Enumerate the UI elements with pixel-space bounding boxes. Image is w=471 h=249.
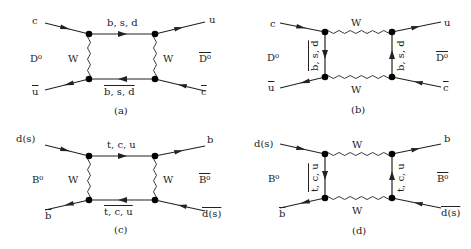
label-outgoing-top: b [207,134,213,145]
vertex [389,195,396,202]
label-initial-meson: B⁰ [268,173,279,184]
label-incoming-bottom: u [32,86,39,97]
vertex [389,151,396,158]
diagram-d: d(s) b b d(s) B⁰ B⁰ W W t, c, u t, c, u … [254,133,460,236]
label-final-meson: B⁰ [437,173,448,184]
label-outgoing-bottom: d(s) [202,208,221,219]
w-boson-bottom [325,76,392,79]
vertex [322,74,329,81]
vertex [86,76,93,83]
label-incoming-top: d(s) [16,133,35,144]
label-final-meson: D⁰ [436,52,448,63]
arrow-icon [60,25,70,30]
arrow-icon [174,27,183,32]
label-right-internal: W [163,174,174,185]
label-top-internal: W [352,139,363,150]
vertex [152,197,159,204]
arrow-icon [414,81,423,86]
arrow-icon [118,76,127,82]
label-outgoing-bottom: c [443,82,449,93]
arrow-icon [300,79,310,84]
diagram-c: d(s) b b d(s) B⁰ B⁰ t, c, u t, c, u W W … [16,133,221,235]
vertex [86,31,93,38]
label-bottom-internal: b, s, d [104,86,135,97]
w-boson-left [88,34,91,79]
arrow-icon [296,146,306,151]
label-final-meson: D⁰ [199,53,211,64]
label-incoming-bottom: b [45,210,51,221]
label-top-internal: W [351,17,362,28]
label-right-internal: t, c, u [395,163,406,192]
label-initial-meson: D⁰ [267,52,279,63]
vertex [322,151,329,158]
arrow-icon [118,153,127,159]
caption-c: (c) [114,224,128,235]
label-bottom-internal: W [352,205,363,216]
vertex [86,153,93,160]
arrow-icon [300,199,310,204]
vertex [152,76,159,83]
arrow-icon [414,202,423,207]
arrow-icon [64,201,74,206]
vertex [389,29,396,36]
caption-d: (d) [352,225,366,236]
label-bottom-internal: W [351,84,362,95]
label-incoming-top: c [32,15,38,26]
arrow-icon [64,81,74,86]
w-boson-top [325,153,392,156]
arrow-icon [178,205,187,210]
vertex [152,153,159,160]
diagram-a: c u u c D⁰ D⁰ b, s, d b, s, d W W (a) [30,14,216,116]
label-right-internal: W [163,53,174,64]
label-top-internal: t, c, u [107,139,136,150]
label-incoming-bottom: u [268,82,275,93]
label-left-internal: W [68,174,79,185]
label-outgoing-top: u [444,17,451,28]
label-final-meson: B⁰ [199,174,210,185]
vertex [86,197,93,204]
label-initial-meson: D⁰ [30,53,42,64]
w-boson-left [88,156,91,200]
arrow-icon [118,197,127,203]
vertex [389,74,396,81]
label-outgoing-top: u [209,14,216,25]
arrow-icon [178,84,187,89]
vertex [322,29,329,36]
label-bottom-internal: t, c, u [104,206,133,217]
vertex [322,195,329,202]
diagram-b: c u u c D⁰ D⁰ W W b, s, d b, s, d (b) [267,17,451,115]
label-outgoing-top: b [444,133,450,144]
w-boson-top [325,31,392,34]
label-top-internal: b, s, d [107,17,138,28]
arrow-icon [296,24,306,29]
w-boson-right [154,156,157,200]
label-outgoing-bottom: c [201,86,207,97]
label-incoming-top: c [270,18,276,29]
arrow-icon [322,171,328,180]
label-left-internal: W [68,53,79,64]
arrow-icon [118,31,127,37]
label-outgoing-bottom: d(s) [441,207,460,218]
arrow-icon [174,150,183,155]
caption-a: (a) [114,105,128,116]
label-initial-meson: B⁰ [32,174,43,185]
label-right-internal: b, s, d [395,40,406,71]
feynman-box-diagrams: c u u c D⁰ D⁰ b, s, d b, s, d W W (a) c … [0,0,471,249]
label-incoming-bottom: b [279,208,285,219]
caption-b: (b) [351,104,365,115]
label-left-internal: t, c, u [309,163,320,192]
arrow-icon [322,50,328,59]
w-boson-right [154,34,157,79]
arrow-icon [411,26,420,31]
label-incoming-top: d(s) [254,138,273,149]
arrow-icon [60,147,70,152]
arrow-icon [411,148,420,153]
label-left-internal: b, s, d [309,40,320,71]
w-boson-bottom [325,197,392,200]
vertex [152,31,159,38]
